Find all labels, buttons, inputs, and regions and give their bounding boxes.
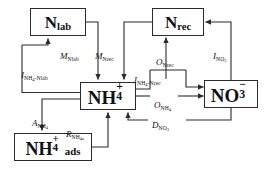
- flux-label-a-nh4: ANH4: [32, 113, 48, 129]
- flux-label-i-nh4-nrec: INH4-Nrec: [134, 70, 161, 86]
- flux-label-o-nrec: ONrec: [156, 52, 174, 68]
- flux-label-m-nlab: MNlab: [60, 46, 79, 62]
- flux-label-i-no3: INO3: [213, 46, 227, 62]
- flux-label-i-nh4-nlab: INH4-Nlab: [21, 65, 48, 81]
- node-n-rec[interactable]: Nrec: [152, 8, 204, 36]
- flux-label-m-nrec: MNrec: [95, 46, 114, 62]
- node-no3-minus-label: NO−3: [211, 83, 251, 105]
- nitrogen-flow-diagram: Nlab Nrec NH+4 NO−3 NH+4ads INH4-Nlab MN…: [0, 0, 266, 169]
- flux-label-o-nh4: ONH4: [154, 95, 171, 111]
- flux-label-r-nh4a: RNH4a: [66, 124, 84, 140]
- flux-label-d-no3: DNO3: [152, 115, 169, 131]
- node-n-lab[interactable]: Nlab: [30, 8, 86, 36]
- node-n-lab-label: Nlab: [45, 13, 71, 30]
- node-n-rec-label: Nrec: [165, 13, 191, 30]
- node-nh4-plus-label: NH+4: [88, 85, 128, 107]
- node-nh4-plus[interactable]: NH+4: [80, 82, 136, 110]
- node-no3-minus[interactable]: NO−3: [204, 80, 258, 108]
